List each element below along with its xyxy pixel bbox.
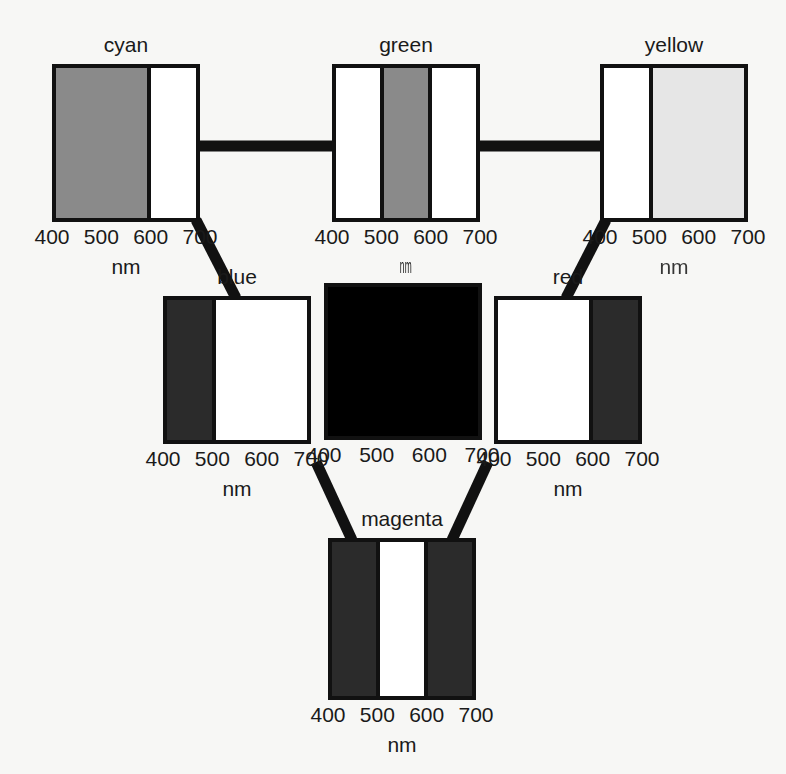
band-black-400-700 xyxy=(328,287,478,436)
axis-unit-green: nm xyxy=(375,256,437,276)
spectrum-panel-yellow: yellow400500600700nm xyxy=(600,64,748,222)
panel-label-cyan: cyan xyxy=(52,34,200,55)
band-yellow-400-500 xyxy=(604,68,649,218)
spectrum-box-cyan xyxy=(52,64,200,222)
axis-tick-cyan-700: 700 xyxy=(182,226,217,247)
axis-tick-magenta-400: 400 xyxy=(310,704,345,725)
panel-label-yellow: yellow xyxy=(600,34,748,55)
panel-label-magenta: magenta xyxy=(328,508,476,529)
band-yellow-500-700 xyxy=(649,68,744,218)
axis-tick-magenta-500: 500 xyxy=(360,704,395,725)
band-red-400-600 xyxy=(498,300,589,440)
axis-green: 400500600700 xyxy=(332,226,480,252)
axis-unit-magenta: nm xyxy=(328,734,476,755)
axis-tick-black-600: 600 xyxy=(412,444,447,465)
spectrum-box-red xyxy=(494,296,642,444)
spectrum-box-magenta xyxy=(328,538,476,700)
spectrum-panel-cyan: cyan400500600700nm xyxy=(52,64,200,222)
band-blue-500-700 xyxy=(212,300,307,440)
axis-tick-red-500: 500 xyxy=(526,448,561,469)
spectrum-box-blue xyxy=(163,296,311,444)
axis-tick-yellow-600: 600 xyxy=(681,226,716,247)
band-green-500-600 xyxy=(380,68,428,218)
axis-tick-yellow-400: 400 xyxy=(582,226,617,247)
axis-magenta: 400500600700 xyxy=(328,704,476,730)
band-magenta-400-500 xyxy=(332,542,376,696)
panel-label-blue: blue xyxy=(163,266,311,287)
axis-tick-black-500: 500 xyxy=(359,444,394,465)
spectrum-panel-green: green400500600700nm xyxy=(332,64,480,222)
axis-tick-cyan-500: 500 xyxy=(84,226,119,247)
axis-tick-green-700: 700 xyxy=(462,226,497,247)
spectrum-panel-blue: blue400500600700nm xyxy=(163,296,311,444)
axis-tick-blue-400: 400 xyxy=(145,448,180,469)
axis-tick-cyan-400: 400 xyxy=(34,226,69,247)
band-green-400-500 xyxy=(336,68,380,218)
band-green-600-700 xyxy=(428,68,476,218)
axis-tick-magenta-600: 600 xyxy=(409,704,444,725)
axis-blue: 400500600700 xyxy=(163,448,311,474)
axis-tick-red-600: 600 xyxy=(575,448,610,469)
spectrum-box-black xyxy=(324,283,482,440)
axis-tick-blue-500: 500 xyxy=(195,448,230,469)
axis-cyan: 400500600700 xyxy=(52,226,200,252)
panel-label-red: red xyxy=(494,266,642,287)
band-red-600-700 xyxy=(589,300,638,440)
axis-tick-red-400: 400 xyxy=(476,448,511,469)
axis-unit-red: nm xyxy=(494,478,642,499)
axis-tick-green-400: 400 xyxy=(314,226,349,247)
diagram-canvas: cyan400500600700nmgreen400500600700nmyel… xyxy=(0,0,786,774)
band-magenta-500-600 xyxy=(376,542,424,696)
spectrum-box-green xyxy=(332,64,480,222)
spectrum-panel-red: red400500600700nm xyxy=(494,296,642,444)
axis-tick-green-500: 500 xyxy=(364,226,399,247)
axis-tick-yellow-500: 500 xyxy=(632,226,667,247)
axis-black: 400500600700 xyxy=(324,444,482,470)
axis-tick-red-700: 700 xyxy=(624,448,659,469)
band-magenta-600-700 xyxy=(424,542,472,696)
axis-tick-yellow-700: 700 xyxy=(730,226,765,247)
axis-tick-magenta-700: 700 xyxy=(458,704,493,725)
panel-label-green: green xyxy=(332,34,480,55)
spectrum-panel-magenta: magenta400500600700nm xyxy=(328,538,476,700)
band-blue-400-500 xyxy=(167,300,212,440)
spectrum-panel-black: black400500600700 xyxy=(324,283,482,440)
axis-tick-cyan-600: 600 xyxy=(133,226,168,247)
axis-yellow: 400500600700 xyxy=(600,226,748,252)
axis-tick-blue-600: 600 xyxy=(244,448,279,469)
axis-red: 400500600700 xyxy=(494,448,642,474)
axis-unit-blue: nm xyxy=(163,478,311,499)
spectrum-box-yellow xyxy=(600,64,748,222)
axis-tick-green-600: 600 xyxy=(413,226,448,247)
axis-tick-black-400: 400 xyxy=(306,444,341,465)
band-cyan-600-700 xyxy=(147,68,196,218)
band-cyan-400-600 xyxy=(56,68,147,218)
